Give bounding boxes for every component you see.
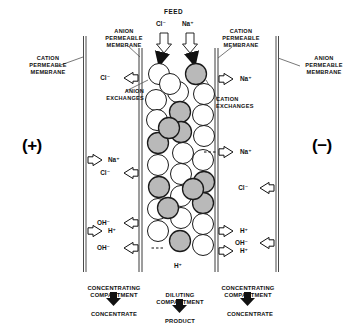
- ion-arrow-inner-right-na-2: [219, 146, 233, 157]
- resin-bead-cation: [149, 177, 170, 198]
- feed-arrow-cl: [157, 33, 172, 53]
- resin-bead-anion: [173, 143, 194, 164]
- resin-label-anion: ANION EXCHANGES: [92, 88, 144, 102]
- resin-bead-cation: [170, 231, 191, 252]
- resin-bead-cation: [186, 64, 207, 85]
- ion-arrow-outer-right-cl: [260, 182, 274, 193]
- resin-bead-anion: [194, 126, 215, 147]
- membrane-label-outer-left: CATION PERMEABLE MEMBRANE: [12, 55, 84, 77]
- compartment-name-right: CONCENTRATING COMPARTMENT: [190, 285, 306, 300]
- resin-bead-anion: [193, 214, 214, 235]
- resin-label-cation: CATION EXCHANGES: [216, 96, 274, 110]
- ion-arrow-inner-right-h-2: [219, 245, 233, 256]
- resin-bead-cation: [158, 198, 179, 219]
- feed-arrow-na: [183, 33, 198, 53]
- ion-arrow-inner-left-cl-2: [124, 167, 138, 178]
- ion-arrow-outer-left-h: [88, 225, 102, 236]
- resin-bead-cation: [159, 118, 180, 139]
- resin-bead-anion: [148, 155, 169, 176]
- resin-bead-anion: [160, 74, 181, 95]
- ion-label-inner-right-h-1: H⁺: [240, 227, 248, 235]
- ion-label-bed-bottom-h: H⁺: [174, 262, 182, 270]
- diagram-canvas: [0, 0, 362, 336]
- resin-bead-anion: [193, 105, 214, 126]
- ion-label-outer-right-oh: OH⁻: [224, 239, 248, 247]
- ion-label-inner-right-h-2: H⁺: [240, 247, 248, 255]
- membrane-label-outer-right: ANION PERMEABLE MEMBRANE: [290, 55, 358, 77]
- ion-label-outer-right-cl: Cl⁻: [224, 184, 248, 192]
- resin-bead-anion: [193, 235, 214, 256]
- membrane-inner-left: [139, 48, 142, 272]
- output-label-right: CONCENTRATE: [204, 311, 296, 318]
- ion-arrow-inner-left-cl-1: [124, 72, 138, 83]
- ion-arrow-inner-left-oh-1: [124, 217, 138, 228]
- feed-ion-cl: Cl⁻: [156, 20, 166, 28]
- ion-label-inner-left-cl-2: Cl⁻: [86, 169, 110, 177]
- membrane-label-inner-right: CATION PERMEABLE MEMBRANE: [206, 28, 276, 50]
- resin-bead-cation: [183, 179, 204, 200]
- ion-arrow-inner-right-h-1: [219, 225, 233, 236]
- ion-label-outer-left-h: H⁺: [108, 227, 116, 235]
- resin-bead-anion: [194, 84, 215, 105]
- ion-label-outer-left-na: Na⁺: [108, 156, 120, 164]
- ion-label-inner-left-oh-2: OH⁻: [86, 244, 110, 252]
- electrode-cathode: (−): [312, 136, 332, 156]
- resin-bead-anion: [193, 150, 214, 171]
- membrane-inner-right: [215, 48, 218, 272]
- output-label-center: PRODUCT: [146, 318, 214, 325]
- ion-label-inner-left-oh-1: OH⁻: [86, 219, 110, 227]
- edi-diagram: FEED Cl⁻ Na⁺ CATION PERMEABLE MEMBRANE A…: [0, 0, 362, 336]
- ion-arrow-inner-left-oh-2: [124, 242, 138, 253]
- ion-arrow-inner-right-na-1: [219, 73, 233, 84]
- resin-bead-anion: [148, 221, 169, 242]
- electrode-anode: (+): [22, 136, 42, 156]
- ion-arrow-outer-left-na: [88, 154, 102, 165]
- ion-label-inner-right-na-2: Na⁺: [240, 148, 252, 156]
- membrane-outer-right: [276, 36, 279, 272]
- ion-label-inner-left-cl-1: Cl⁻: [86, 74, 110, 82]
- feed-ion-na: Na⁺: [182, 20, 194, 28]
- ion-arrow-outer-right-oh: [260, 237, 274, 248]
- membrane-label-inner-left: ANION PERMEABLE MEMBRANE: [90, 28, 158, 50]
- feed-title: FEED: [164, 8, 183, 15]
- ion-label-inner-right-na-1: Na⁺: [240, 75, 252, 83]
- resin-bead-group: [146, 64, 215, 256]
